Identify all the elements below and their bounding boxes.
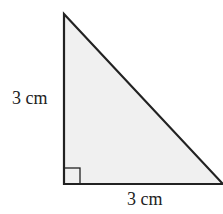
diagram: 3 cm 3 cm [0,0,223,214]
triangle [64,14,223,184]
vertical-side-label: 3 cm [12,88,48,109]
horizontal-side-label: 3 cm [127,189,163,210]
